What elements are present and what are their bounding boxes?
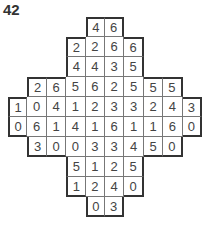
- grid-cell: 0: [27, 97, 46, 117]
- grid-cell: 3: [27, 137, 46, 157]
- grid-cell: 3: [183, 97, 202, 117]
- grid-cell: 1: [47, 117, 66, 137]
- grid-cell: 2: [144, 97, 163, 117]
- grid-cell: 1: [66, 177, 85, 197]
- grid-cell: 3: [124, 97, 143, 117]
- grid-cell: 0: [8, 117, 27, 137]
- puzzle-number: 42: [3, 1, 20, 18]
- grid-cell: 4: [47, 97, 66, 117]
- grid-cell: 6: [86, 77, 105, 97]
- grid-cell: 2: [66, 37, 85, 57]
- grid-cell: 0: [47, 137, 66, 157]
- grid-cell: 5: [144, 137, 163, 157]
- grid-cell: 2: [105, 77, 124, 97]
- grid-cell: 6: [105, 17, 124, 37]
- grid-cell: 5: [66, 77, 85, 97]
- grid-cell: 0: [124, 177, 143, 197]
- grid-cell: 5: [124, 77, 143, 97]
- grid-cell: 2: [86, 97, 105, 117]
- grid-cell: 1: [86, 117, 105, 137]
- grid-cell: 1: [66, 97, 85, 117]
- grid-cell: 1: [86, 157, 105, 177]
- grid-cell: 3: [105, 137, 124, 157]
- grid-cell: 5: [124, 157, 143, 177]
- grid-cell: 2: [86, 37, 105, 57]
- grid-cell: 3: [105, 97, 124, 117]
- grid-cell: 6: [105, 117, 124, 137]
- grid-cell: 5: [144, 77, 163, 97]
- grid-cell: 4: [66, 57, 85, 77]
- grid-cell: 2: [105, 157, 124, 177]
- grid-cell: 6: [105, 37, 124, 57]
- grid-cell: 0: [86, 197, 105, 217]
- grid-cell: 6: [27, 117, 46, 137]
- grid-cell: 6: [47, 77, 66, 97]
- grid-cell: 1: [8, 97, 27, 117]
- grid-cell: 0: [183, 117, 202, 137]
- grid-cell: 6: [163, 117, 182, 137]
- grid-cell: 3: [105, 57, 124, 77]
- grid-cell: 4: [105, 177, 124, 197]
- grid-cell: 3: [105, 197, 124, 217]
- grid-cell: 5: [66, 157, 85, 177]
- grid-cell: 6: [124, 37, 143, 57]
- grid-cell: 0: [66, 137, 85, 157]
- grid-cell: 1: [144, 117, 163, 137]
- grid-cell: 3: [86, 137, 105, 157]
- grid-cell: 4: [86, 17, 105, 37]
- grid-cell: 4: [66, 117, 85, 137]
- grid-cell: 5: [124, 57, 143, 77]
- grid-cell: 4: [163, 97, 182, 117]
- grid-cell: 2: [86, 177, 105, 197]
- grid-cell: 4: [124, 137, 143, 157]
- grid-cell: 0: [163, 137, 182, 157]
- grid-cell: 1: [124, 117, 143, 137]
- grid-cell: 4: [86, 57, 105, 77]
- grid-cell: 2: [27, 77, 46, 97]
- grid-cell: 5: [163, 77, 182, 97]
